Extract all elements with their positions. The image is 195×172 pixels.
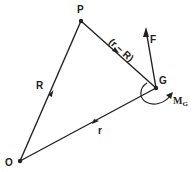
label-M-subscript: G — [182, 100, 188, 108]
label-G: G — [159, 75, 167, 86]
label-M-G: MG — [173, 95, 188, 108]
vector-r-line — [20, 88, 156, 161]
vector-diagram: P R (r − R) F G r O MG — [0, 0, 195, 172]
label-r-minus-R: (r − R) — [107, 36, 136, 63]
point-P-dot — [79, 19, 83, 23]
label-r: r — [98, 125, 102, 136]
label-F: F — [150, 34, 156, 45]
force-F-arrowhead-icon — [143, 27, 149, 37]
point-O-dot — [18, 159, 22, 163]
label-R: R — [36, 80, 44, 91]
moment-arrowhead-icon — [166, 92, 173, 99]
label-P: P — [77, 4, 84, 15]
vector-R-line — [20, 21, 81, 161]
label-O: O — [5, 157, 13, 168]
point-G-dot — [154, 86, 158, 90]
